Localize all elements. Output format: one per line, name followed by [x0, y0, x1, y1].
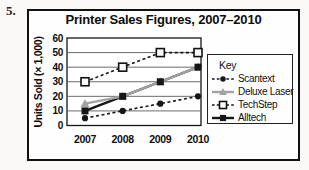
svg-text:50: 50	[52, 47, 63, 58]
svg-text:2007: 2007	[74, 133, 97, 145]
legend-label: TechStep	[238, 99, 277, 110]
legend-swatch-scantext-icon	[211, 73, 235, 85]
legend-label: Alltech	[238, 112, 266, 123]
legend-item: Alltech	[208, 111, 292, 124]
svg-text:20: 20	[52, 91, 63, 102]
svg-text:2010: 2010	[187, 133, 210, 145]
svg-text:0: 0	[58, 120, 64, 131]
svg-text:60: 60	[52, 33, 63, 44]
legend-item: Scantext	[208, 72, 292, 85]
legend: Key Scantext Deluxe Laser TechStep Allte…	[207, 54, 293, 124]
svg-text:40: 40	[52, 62, 63, 73]
legend-swatch-deluxe-laser-icon	[211, 86, 235, 98]
svg-text:30: 30	[52, 76, 63, 87]
legend-label: Scantext	[238, 73, 275, 84]
legend-item: TechStep	[208, 98, 292, 111]
legend-item: Deluxe Laser	[208, 85, 292, 98]
legend-swatch-alltech-icon	[211, 112, 235, 124]
legend-swatch-techstep-icon	[211, 99, 235, 111]
legend-title: Key	[219, 59, 292, 71]
svg-text:10: 10	[52, 105, 63, 116]
svg-text:2009: 2009	[149, 133, 172, 145]
legend-label: Deluxe Laser	[238, 86, 293, 97]
svg-text:2008: 2008	[112, 133, 135, 145]
